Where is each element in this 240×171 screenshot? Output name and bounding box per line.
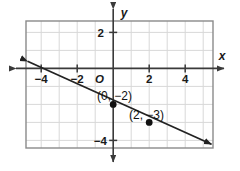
point-label-0-neg2: (0, −2) <box>97 89 132 103</box>
y-tick-label-2: 2 <box>98 27 104 39</box>
x-tick-label-2: 2 <box>146 73 152 85</box>
x-tick-label-neg4: −4 <box>35 73 49 85</box>
x-axis-label: x <box>218 49 227 63</box>
graph-svg: −4 −2 2 4 2 −4 O x y (0, −2) (2, −3) <box>0 0 240 171</box>
point-label-2-neg3: (2, −3) <box>129 108 164 122</box>
coordinate-plane-graph: −4 −2 2 4 2 −4 O x y (0, −2) (2, −3) <box>0 0 240 171</box>
origin-label: O <box>95 73 104 85</box>
y-tick-label-neg4: −4 <box>94 135 108 147</box>
x-tick-label-neg2: −2 <box>71 73 84 85</box>
y-axis-label: y <box>120 6 129 20</box>
x-tick-label-4: 4 <box>182 73 189 85</box>
